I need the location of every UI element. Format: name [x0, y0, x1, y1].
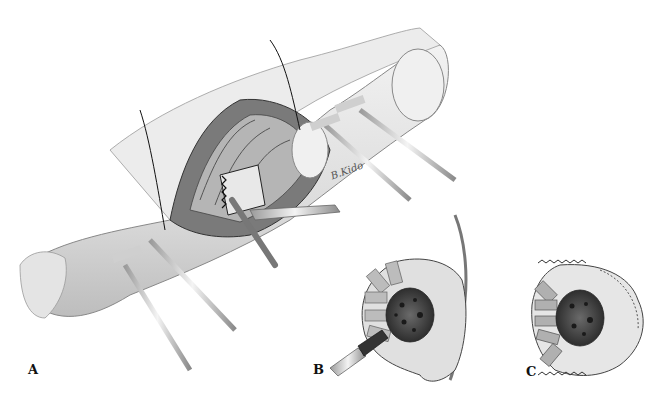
panel-c-cross-section — [532, 260, 643, 375]
panel-label-a: A — [28, 362, 38, 377]
panel-b-cross-section — [330, 215, 466, 381]
panel-label-b: B — [313, 362, 324, 377]
panel-label-c: C — [526, 364, 536, 379]
illustration-canvas — [0, 0, 668, 396]
